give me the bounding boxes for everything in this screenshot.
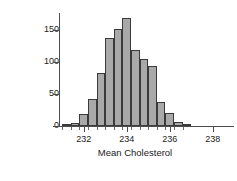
x-tick-label: 238 — [196, 134, 230, 144]
histogram-bar — [174, 122, 183, 126]
x-tick-mark — [213, 127, 214, 132]
x-minor-tick — [183, 127, 184, 130]
y-tick-label: 50 — [11, 88, 59, 98]
x-tick-label: 234 — [110, 134, 144, 144]
histogram-bar — [97, 73, 106, 126]
histogram-bar — [148, 66, 157, 126]
x-minor-tick — [88, 127, 89, 130]
histogram-bar — [71, 123, 80, 126]
x-tick-mark — [84, 127, 85, 132]
x-minor-tick — [71, 127, 72, 130]
x-minor-tick — [114, 127, 115, 130]
histogram-bar — [183, 124, 192, 126]
y-tick: 100 — [0, 62, 59, 63]
histogram-bar — [105, 38, 114, 126]
x-tick-mark — [127, 127, 128, 132]
histogram-bar — [140, 59, 149, 126]
histogram-bar — [88, 99, 97, 126]
x-minor-tick — [131, 127, 132, 130]
x-minor-tick — [97, 127, 98, 130]
x-tick-mark — [170, 127, 171, 132]
x-tick-label: 232 — [67, 134, 101, 144]
histogram-bar — [79, 114, 88, 126]
x-minor-tick — [174, 127, 175, 130]
histogram-bar — [165, 113, 174, 126]
histogram-figure: # of Samples 050100150 232234236238 Mean… — [0, 0, 237, 181]
y-tick: 50 — [0, 94, 59, 95]
y-tick: 150 — [0, 30, 59, 31]
y-tick-label: 100 — [11, 56, 59, 66]
y-tick-mark — [53, 62, 59, 63]
x-minor-tick — [122, 127, 123, 130]
histogram-bar — [122, 18, 131, 126]
y-tick-mark — [53, 126, 59, 127]
x-minor-tick — [157, 127, 158, 130]
y-tick-mark — [53, 30, 59, 31]
histogram-bar — [114, 29, 123, 126]
x-axis-title: Mean Cholesterol — [40, 147, 230, 158]
x-minor-tick — [105, 127, 106, 130]
x-minor-tick — [62, 127, 63, 130]
x-tick-label: 236 — [153, 134, 187, 144]
y-tick: 0 — [0, 126, 59, 127]
y-tick-label: 150 — [11, 24, 59, 34]
histogram-bar — [131, 50, 140, 126]
histogram-bar — [62, 124, 71, 126]
y-tick-mark — [53, 94, 59, 95]
histogram-bar — [157, 102, 166, 126]
x-minor-tick — [148, 127, 149, 130]
y-tick-label: 0 — [11, 120, 59, 130]
x-minor-tick — [165, 127, 166, 130]
x-minor-tick — [79, 127, 80, 130]
plot-area — [60, 14, 232, 126]
x-minor-tick — [140, 127, 141, 130]
